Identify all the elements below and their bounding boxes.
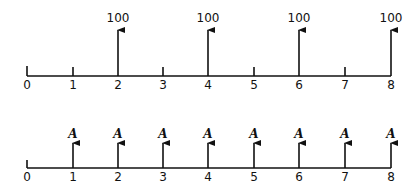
cash-flow-diagrams — [0, 0, 418, 192]
tick-label: 0 — [23, 79, 31, 91]
arrow-value-label: A — [386, 128, 395, 140]
arrow-value-label: A — [249, 128, 258, 140]
tick-label: 3 — [159, 79, 167, 91]
tick-label: 2 — [114, 79, 122, 91]
tick-label: 7 — [341, 79, 349, 91]
tick-label: 8 — [387, 79, 395, 91]
top-diagram — [27, 30, 391, 76]
arrow-value-label: A — [68, 128, 77, 140]
arrow-value-label: A — [294, 128, 303, 140]
bottom-diagram — [27, 143, 391, 168]
arrow-value-label: 100 — [380, 12, 403, 24]
tick-label: 5 — [250, 79, 258, 91]
tick-label: 0 — [23, 171, 31, 183]
tick-label: 3 — [159, 171, 167, 183]
arrow-value-label: 100 — [107, 12, 130, 24]
tick-label: 7 — [341, 171, 349, 183]
tick-label: 4 — [204, 79, 212, 91]
arrow-value-label: A — [113, 128, 122, 140]
arrow-value-label: A — [158, 128, 167, 140]
arrow-value-label: A — [340, 128, 349, 140]
tick-label: 8 — [387, 171, 395, 183]
arrow-value-label: 100 — [197, 12, 220, 24]
tick-label: 6 — [295, 79, 303, 91]
tick-label: 4 — [204, 171, 212, 183]
tick-label: 2 — [114, 171, 122, 183]
tick-label: 5 — [250, 171, 258, 183]
tick-label: 6 — [295, 171, 303, 183]
arrow-value-label: A — [203, 128, 212, 140]
arrow-value-label: 100 — [288, 12, 311, 24]
tick-label: 1 — [69, 171, 77, 183]
tick-label: 1 — [69, 79, 77, 91]
